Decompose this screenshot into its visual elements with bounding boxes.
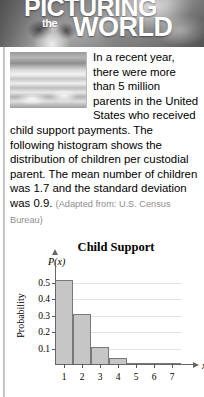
gridline [55, 299, 181, 300]
plot-area: 0.10.20.30.40.5 x 1234567 [55, 270, 181, 365]
x-tick-mark [172, 364, 173, 368]
banner-word-the: the [42, 18, 57, 29]
banner-title: PICTURING the WORLD [0, 0, 204, 47]
x-tick-mark [64, 364, 65, 368]
article-block: In a recent year, there were more than 5… [10, 50, 200, 227]
histogram-bar [55, 280, 73, 365]
x-tick-mark [82, 364, 83, 368]
y-axis-label: Probability [15, 276, 26, 356]
child-support-histogram: Child Support P(x) Probability 0.10.20.3… [0, 232, 204, 397]
y-tick-label: 0.4 [38, 294, 50, 304]
page-root: PICTURING the WORLD In a recent year, th… [0, 0, 204, 397]
banner-word-world: WORLD [73, 14, 172, 41]
y-tick-label: 0.1 [38, 344, 50, 354]
x-tick-label: 6 [152, 372, 157, 382]
x-tick-mark [100, 364, 101, 368]
x-tick-label: 5 [134, 372, 139, 382]
x-tick-label: 7 [170, 372, 175, 382]
y-tick-label: 0.5 [38, 278, 50, 288]
histogram-bar [91, 347, 109, 365]
x-tick-mark [136, 364, 137, 368]
x-axis-label: x [202, 360, 204, 371]
y-tick-label: 0.2 [38, 327, 50, 337]
y-axis-line [55, 262, 56, 365]
histogram-bar [73, 314, 91, 365]
gridline [55, 283, 181, 284]
y-axis-arrow-icon [52, 249, 58, 255]
y-tick-label: 0.3 [38, 311, 50, 321]
y-axis-symbol-label: P(x) [48, 256, 65, 267]
x-tick-mark [118, 364, 119, 368]
x-tick-label: 2 [80, 372, 85, 382]
x-tick-mark [154, 364, 155, 368]
picturing-the-world-banner: PICTURING the WORLD [0, 0, 204, 47]
x-tick-label: 3 [98, 372, 103, 382]
x-axis-arrow-icon [193, 362, 199, 368]
books-photo [10, 52, 87, 108]
chart-title: Child Support [0, 240, 204, 255]
x-tick-label: 4 [116, 372, 121, 382]
x-tick-label: 1 [62, 372, 67, 382]
